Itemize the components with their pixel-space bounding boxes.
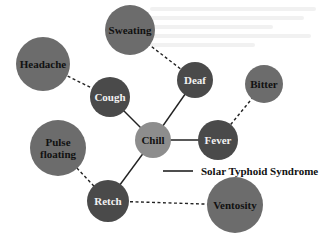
node-label: Retch: [94, 195, 122, 207]
node-label: Headache: [20, 58, 67, 70]
node-deaf: Deaf: [177, 62, 213, 98]
node-label: Fever: [205, 134, 232, 146]
node-label: Deaf: [184, 74, 206, 86]
node-label: Ventosity: [213, 199, 257, 211]
node-ventosity: Ventosity: [207, 177, 263, 233]
legend: Solar Typhoid Syndrome: [163, 165, 318, 177]
node-bitter: Bitter: [245, 65, 283, 103]
node-chill: Chill: [135, 122, 171, 158]
legend-label: Solar Typhoid Syndrome: [201, 165, 318, 177]
node-pulse-floating: Pulsefloating: [30, 120, 86, 176]
node-label: Pulse: [45, 136, 70, 148]
node-label: Bitter: [250, 78, 278, 90]
node-cough: Cough: [90, 77, 130, 117]
symptom-network-diagram: SweatingHeadacheCoughDeafBitterChillFeve…: [0, 0, 325, 238]
node-retch: Retch: [87, 180, 129, 222]
node-label: Chill: [141, 134, 164, 146]
node-label: Cough: [94, 91, 125, 103]
node-label: Sweating: [109, 24, 152, 36]
node-label: floating: [40, 148, 77, 160]
node-sweating: Sweating: [105, 5, 155, 55]
nodes-layer: SweatingHeadacheCoughDeafBitterChillFeve…: [16, 5, 283, 233]
node-fever: Fever: [198, 120, 238, 160]
node-headache: Headache: [16, 37, 70, 91]
